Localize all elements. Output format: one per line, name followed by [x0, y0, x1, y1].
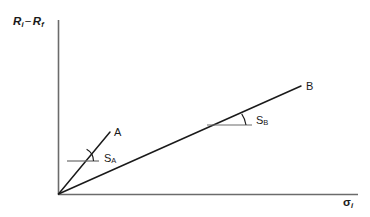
y-axis-title-r2: R: [33, 15, 42, 27]
series-label-b: B: [306, 81, 313, 92]
plot-area: [0, 0, 370, 217]
angle-arc-b: [242, 114, 246, 125]
y-axis-title: Ri−Rf: [13, 16, 44, 28]
x-axis-title: σi: [343, 197, 353, 209]
y-axis-title-sub-f: f: [41, 20, 44, 29]
y-axis-title-term-2: Rf: [33, 15, 44, 27]
slope-label-b-subscript: B: [263, 118, 268, 127]
y-axis-title-minus-operator: −: [24, 15, 33, 27]
y-axis-title-r1: R: [13, 15, 22, 27]
slope-label-a: SA: [104, 153, 116, 165]
series-label-a: A: [114, 127, 121, 138]
x-axis-title-sub-i: i: [351, 201, 353, 210]
x-axis-title-sigma: σ: [343, 196, 351, 208]
slope-label-a-subscript: A: [111, 156, 116, 165]
series-line-b: [59, 86, 302, 194]
slope-label-b: SB: [256, 115, 268, 127]
series-line-a: [59, 132, 111, 194]
y-axis-title-term-1: Ri: [13, 15, 24, 27]
figure-canvas: Ri−Rf σi A B SA SB: [0, 0, 370, 217]
